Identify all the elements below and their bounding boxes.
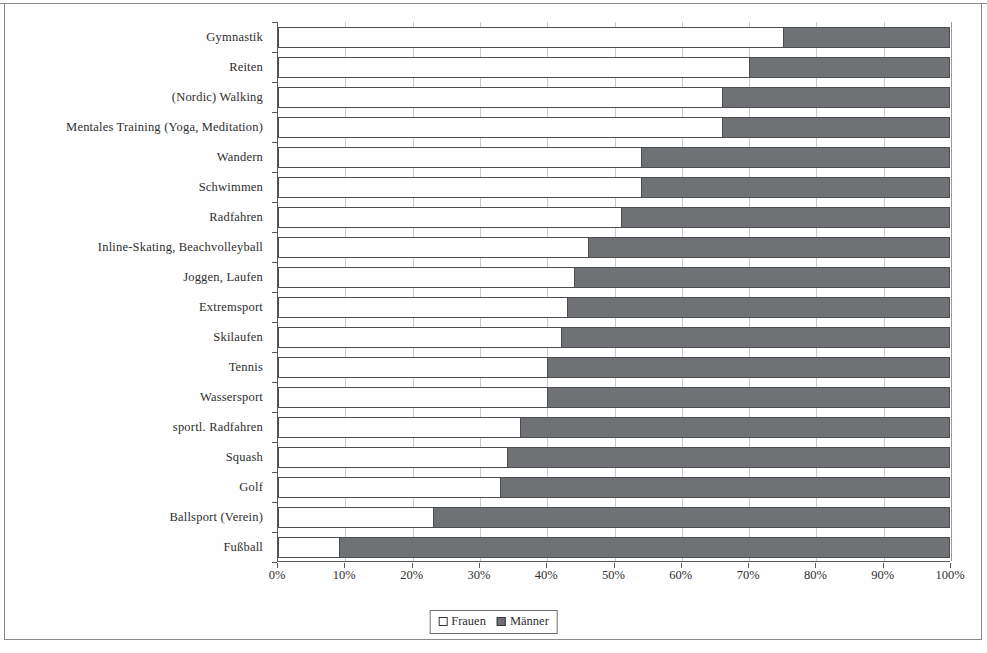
- y-axis-label: Golf: [239, 480, 263, 494]
- y-axis-label: Fußball: [223, 540, 263, 554]
- y-axis-label: Ballsport (Verein): [169, 510, 263, 524]
- x-axis-label: 0%: [269, 568, 286, 583]
- x-axis-label: 70%: [737, 568, 760, 583]
- bar-row: [278, 267, 950, 288]
- bar-row: [278, 387, 950, 408]
- legend-swatch-frauen-icon: [438, 617, 447, 626]
- x-axis-label: 10%: [333, 568, 356, 583]
- chart-page: GymnastikReiten(Nordic) WalkingMentales …: [0, 0, 987, 653]
- bar-segment-frauen: [279, 268, 575, 287]
- y-axis-label: (Nordic) Walking: [172, 90, 263, 104]
- stacked-bar: [278, 357, 950, 378]
- legend-swatch-maenner-icon: [497, 617, 506, 626]
- bar-segment-maenner: [508, 448, 949, 467]
- stacked-bar: [278, 177, 950, 198]
- stacked-bar: [278, 387, 950, 408]
- bar-segment-maenner: [589, 238, 949, 257]
- bar-segment-frauen: [279, 208, 622, 227]
- stacked-bar: [278, 267, 950, 288]
- stacked-bar: [278, 507, 950, 528]
- bar-row: [278, 27, 950, 48]
- bar-row: [278, 327, 950, 348]
- gridline-100: [951, 22, 952, 561]
- bar-segment-maenner: [501, 478, 949, 497]
- bar-row: [278, 447, 950, 468]
- stacked-bar: [278, 327, 950, 348]
- y-axis-label: Gymnastik: [206, 30, 263, 44]
- bar-row: [278, 357, 950, 378]
- y-axis-labels: GymnastikReiten(Nordic) WalkingMentales …: [0, 22, 270, 562]
- x-axis-label: 50%: [602, 568, 625, 583]
- y-axis-label: Radfahren: [209, 210, 263, 224]
- bar-segment-frauen: [279, 358, 548, 377]
- x-axis-label: 20%: [400, 568, 423, 583]
- bar-segment-maenner: [562, 328, 949, 347]
- bar-segment-frauen: [279, 508, 434, 527]
- bar-row: [278, 507, 950, 528]
- x-axis-label: 60%: [669, 568, 692, 583]
- y-axis-label: Reiten: [229, 60, 263, 74]
- x-axis-label: 30%: [467, 568, 490, 583]
- bar-segment-maenner: [575, 268, 949, 287]
- bar-row: [278, 57, 950, 78]
- stacked-bar: [278, 477, 950, 498]
- y-axis-label: Wassersport: [200, 390, 263, 404]
- stacked-bar-chart: GymnastikReiten(Nordic) WalkingMentales …: [0, 0, 987, 653]
- legend-label: Männer: [510, 614, 549, 629]
- bar-segment-frauen: [279, 478, 501, 497]
- bar-row: [278, 417, 950, 438]
- bar-segment-frauen: [279, 298, 568, 317]
- y-axis-label: Extremsport: [199, 300, 263, 314]
- bar-row: [278, 117, 950, 138]
- stacked-bar: [278, 147, 950, 168]
- y-axis-label: Tennis: [229, 360, 263, 374]
- bar-segment-frauen: [279, 238, 589, 257]
- bar-segment-maenner: [521, 418, 949, 437]
- y-axis-label: sportl. Radfahren: [173, 420, 263, 434]
- bar-segment-frauen: [279, 388, 548, 407]
- stacked-bar: [278, 207, 950, 228]
- bar-row: [278, 177, 950, 198]
- stacked-bar: [278, 237, 950, 258]
- x-axis-label: 40%: [535, 568, 558, 583]
- x-axis-label: 100%: [935, 568, 964, 583]
- chart-legend: FrauenMänner: [429, 610, 558, 634]
- bar-segment-frauen: [279, 178, 642, 197]
- legend-label: Frauen: [451, 614, 486, 629]
- bar-row: [278, 477, 950, 498]
- bar-segment-frauen: [279, 28, 784, 47]
- legend-item: Frauen: [438, 614, 486, 629]
- bar-segment-frauen: [279, 58, 750, 77]
- bar-segment-maenner: [723, 118, 949, 137]
- bar-segment-maenner: [750, 58, 949, 77]
- bar-segment-frauen: [279, 538, 340, 557]
- legend-item: Männer: [497, 614, 549, 629]
- bar-segment-maenner: [622, 208, 949, 227]
- bar-segment-maenner: [784, 28, 949, 47]
- bar-segment-frauen: [279, 88, 723, 107]
- stacked-bar: [278, 297, 950, 318]
- x-axis-label: 90%: [871, 568, 894, 583]
- bar-row: [278, 207, 950, 228]
- y-axis-label: Schwimmen: [199, 180, 263, 194]
- bar-row: [278, 147, 950, 168]
- bar-segment-maenner: [642, 178, 949, 197]
- stacked-bar: [278, 87, 950, 108]
- bar-segment-frauen: [279, 328, 562, 347]
- stacked-bar: [278, 417, 950, 438]
- bar-segment-maenner: [340, 538, 949, 557]
- bar-segment-frauen: [279, 148, 642, 167]
- y-axis-label: Mentales Training (Yoga, Meditation): [66, 120, 263, 134]
- plot-area: [277, 22, 950, 562]
- y-axis-label: Inline-Skating, Beachvolleyball: [98, 240, 263, 254]
- stacked-bar: [278, 537, 950, 558]
- stacked-bar: [278, 117, 950, 138]
- bar-segment-maenner: [548, 388, 949, 407]
- y-axis-label: Squash: [226, 450, 263, 464]
- bar-row: [278, 297, 950, 318]
- bar-segment-frauen: [279, 418, 521, 437]
- stacked-bar: [278, 27, 950, 48]
- bar-segment-maenner: [434, 508, 949, 527]
- bar-segment-frauen: [279, 118, 723, 137]
- x-axis-label: 80%: [804, 568, 827, 583]
